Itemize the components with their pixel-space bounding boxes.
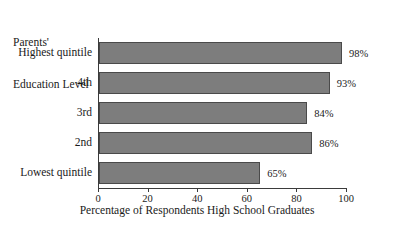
value-axis-tick-label: 60: [242, 193, 253, 204]
value-axis-tick-label: 40: [192, 193, 203, 204]
value-axis-line: [98, 188, 346, 189]
category-label: Highest quintile: [0, 46, 92, 58]
value-axis-tick-label: 100: [338, 193, 354, 204]
value-axis-tick: [346, 188, 347, 192]
value-axis-tick: [148, 188, 149, 192]
value-axis-tick: [197, 188, 198, 192]
value-axis-tick: [247, 188, 248, 192]
bar-value-label: 65%: [267, 168, 286, 179]
bar-row: 84%: [99, 102, 347, 124]
category-label: Lowest quintile: [0, 166, 92, 178]
category-label: 4th: [0, 76, 92, 88]
bar: [99, 42, 342, 64]
bar: [99, 102, 307, 124]
plot-area: 98%93%84%86%65% 020406080100: [98, 38, 346, 188]
value-axis-title: Percentage of Respondents High School Gr…: [0, 204, 394, 216]
bar-value-label: 86%: [319, 138, 338, 149]
bar-value-label: 98%: [349, 48, 368, 59]
value-axis-tick: [98, 188, 99, 192]
bar-row: 86%: [99, 132, 347, 154]
bar: [99, 132, 312, 154]
bar-row: 98%: [99, 42, 347, 64]
value-axis-tick-label: 0: [95, 193, 100, 204]
bar: [99, 162, 260, 184]
bar: [99, 72, 330, 94]
bar-value-label: 84%: [314, 108, 333, 119]
value-axis-tick: [296, 188, 297, 192]
bar-chart: Parents' Education Level Highest quintil…: [0, 0, 394, 234]
category-labels: Highest quintile4th3rd2ndLowest quintile: [0, 38, 92, 188]
bar-row: 93%: [99, 72, 347, 94]
category-label: 2nd: [0, 136, 92, 148]
value-axis-tick-label: 80: [291, 193, 302, 204]
category-label: 3rd: [0, 106, 92, 118]
value-axis-tick-label: 20: [142, 193, 153, 204]
bar-value-label: 93%: [337, 78, 356, 89]
bar-row: 65%: [99, 162, 347, 184]
